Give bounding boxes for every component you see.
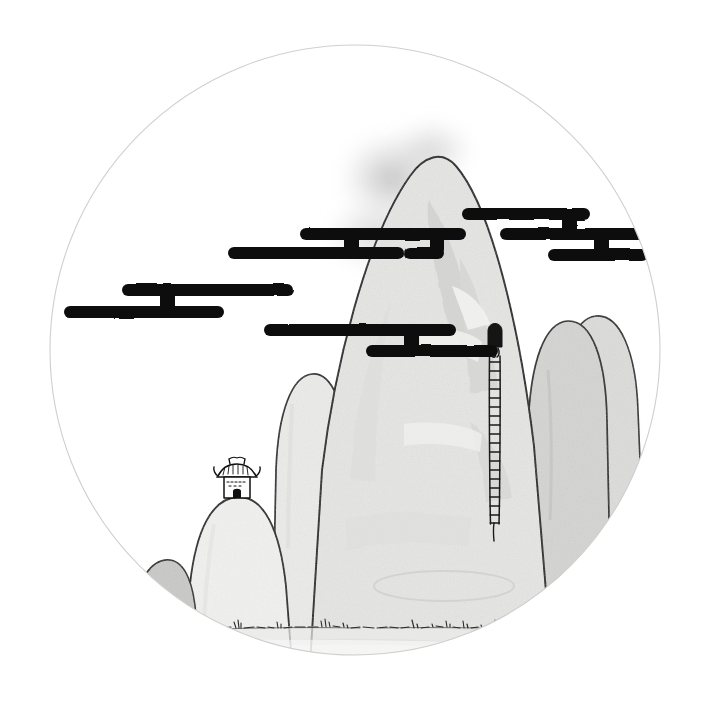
- pagoda-door: [233, 489, 241, 498]
- cave-door[interactable]: [488, 324, 502, 348]
- artboard: Ink-wash mountain with hanging ladder pe…: [0, 0, 709, 711]
- ink-mountain-illustration: [0, 0, 709, 711]
